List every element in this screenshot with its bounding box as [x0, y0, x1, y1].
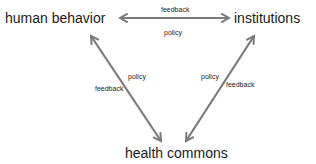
- edge-left-feedback-label: feedback: [95, 85, 124, 92]
- node-institutions: institutions: [234, 10, 300, 26]
- edge-top-policy-label: policy: [164, 29, 182, 37]
- triangle-diagram: human behavior institutions health commo…: [0, 0, 316, 164]
- edge-right-policy-label: policy: [201, 73, 219, 81]
- edge-right-feedback-label: feedback: [226, 81, 255, 88]
- edge-arrow-right: [186, 36, 254, 141]
- node-human-behavior: human behavior: [5, 10, 106, 26]
- edge-left-policy-label: policy: [128, 73, 146, 81]
- node-health-commons: health commons: [125, 145, 228, 161]
- edge-top-feedback-label: feedback: [161, 6, 190, 13]
